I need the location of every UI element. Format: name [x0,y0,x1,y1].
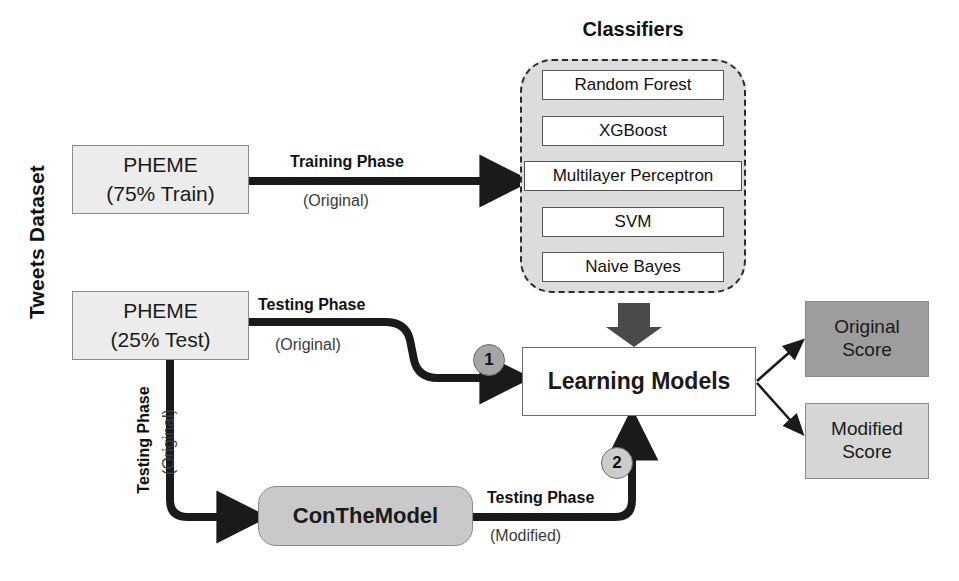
classifier-item-svm[interactable]: SVM [542,207,724,237]
pheme-test-title: PHEME [123,298,198,324]
edge-label-testing-original-top: (Original) [275,336,341,354]
edge-label-testing-phase-bottom: Testing Phase [487,489,594,507]
original-score-line2: Score [842,339,892,362]
step-badge-2: 2 [601,447,633,479]
classifiers-title: Classifiers [520,18,746,41]
original-score-line1: Original [834,316,899,339]
edge-learning-to-original-score [757,343,800,381]
learning-models-node[interactable]: Learning Models [522,347,756,416]
edge-label-testing-original-down: (Original) [160,397,180,487]
edge-test-to-conthemodel [170,360,242,517]
modified-score-line2: Score [842,441,892,464]
original-score-node[interactable]: Original Score [805,301,929,377]
modified-score-node[interactable]: Modified Score [805,403,929,479]
edge-learning-to-modified-score [757,383,800,431]
modified-score-line1: Modified [831,418,903,441]
pheme-test-node[interactable]: PHEME (25% Test) [72,291,249,360]
classifier-item-xgboost[interactable]: XGBoost [542,116,724,146]
edge-label-testing-phase-down: Testing Phase [135,380,155,500]
edge-label-training-phase: Training Phase [290,153,404,171]
classifier-item-multilayer-perceptron[interactable]: Multilayer Perceptron [524,161,742,191]
learning-models-label: Learning Models [548,368,731,395]
edge-label-testing-phase-top: Testing Phase [258,296,365,314]
edge-label-testing-modified-bottom: (Modified) [490,527,561,545]
classifier-item-naive-bayes[interactable]: Naive Bayes [542,252,724,282]
edge-label-training-original: (Original) [303,192,369,210]
tweets-dataset-label: Tweets Dataset [17,142,57,342]
pheme-train-title: PHEME [123,152,198,178]
pheme-test-subtitle: (25% Test) [111,327,211,353]
conthemodel-node[interactable]: ConTheModel [258,486,473,546]
classifiers-group: Random Forest XGBoost Multilayer Percept… [520,59,746,293]
diagram-canvas: Tweets Dataset PHEME (75% Train) PHEME (… [0,0,959,581]
pheme-train-node[interactable]: PHEME (75% Train) [72,145,249,214]
conthemodel-label: ConTheModel [293,503,438,529]
classifier-item-random-forest[interactable]: Random Forest [542,70,724,100]
step-badge-1: 1 [473,344,505,376]
classifiers-to-learning-models-block-arrow [606,303,662,347]
pheme-train-subtitle: (75% Train) [106,181,215,207]
